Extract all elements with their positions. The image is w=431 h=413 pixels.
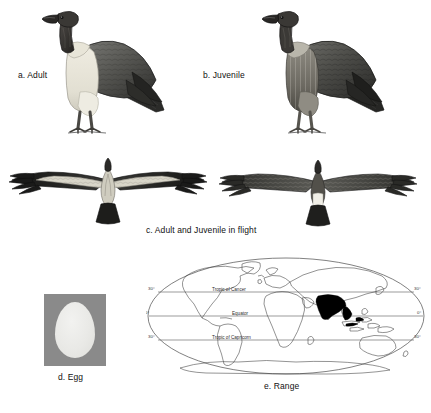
juvenile-in-flight-illustration [218, 152, 418, 234]
adult-vulture-illustration [28, 6, 168, 138]
adult-in-flight-illustration [8, 152, 208, 230]
caption-juvenile: b. Juvenile [203, 70, 245, 80]
caption-egg: d. Egg [58, 372, 83, 382]
label-tropic-of-cancer: Tropic of Cancer [212, 287, 246, 292]
caption-range: e. Range [264, 381, 299, 391]
juvenile-vulture-illustration [248, 6, 388, 138]
field-guide-plate: a. Adult [0, 0, 431, 413]
tick-right-30n: 30° [414, 286, 421, 291]
tick-right-0: 0° [417, 310, 421, 315]
tick-right-30s: 30° [414, 334, 421, 339]
caption-adult: a. Adult [18, 70, 47, 80]
tick-left-30s: 30° [148, 334, 155, 339]
label-equator: Equator [232, 311, 249, 316]
egg-illustration [44, 294, 106, 366]
tick-left-0: 0° [146, 310, 149, 315]
egg-shape [55, 302, 95, 358]
label-tropic-of-capricorn: Tropic of Capricorn [212, 335, 251, 340]
tick-left-30n: 30° [148, 286, 155, 291]
caption-flight: c. Adult and Juvenile in flight [146, 225, 256, 235]
range-map: Tropic of Cancer Equator Tropic of Capri… [146, 256, 426, 380]
